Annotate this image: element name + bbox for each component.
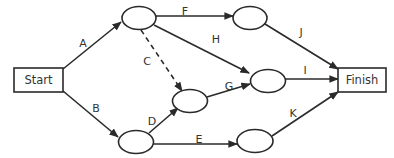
event-node-2 — [119, 131, 154, 154]
event-node-5 — [251, 70, 286, 93]
finish-label: Finish — [346, 73, 379, 87]
edge-b — [63, 91, 118, 137]
edge-label-k: K — [289, 107, 297, 120]
edge-label-c: C — [143, 55, 151, 68]
edge-label-j: J — [298, 26, 302, 39]
edge-label-f: F — [182, 5, 188, 18]
edge-label-e: E — [196, 133, 203, 146]
edge-k — [272, 92, 338, 136]
event-node-3 — [173, 90, 208, 113]
edge-label-h: H — [212, 33, 220, 46]
edge-a — [63, 22, 121, 69]
edge-label-g: G — [225, 80, 234, 93]
edge-label-a: A — [79, 37, 87, 50]
event-node-1 — [122, 7, 156, 30]
edge-label-i: I — [303, 64, 306, 77]
edge-label-d: D — [148, 115, 156, 128]
event-node-6 — [237, 130, 273, 153]
start-label: Start — [24, 73, 53, 87]
network-diagram: Start Finish A B C D E F G H I J K — [0, 0, 394, 158]
edge-h — [154, 25, 249, 73]
event-node-4 — [233, 7, 267, 30]
edge-label-b: B — [92, 102, 100, 115]
